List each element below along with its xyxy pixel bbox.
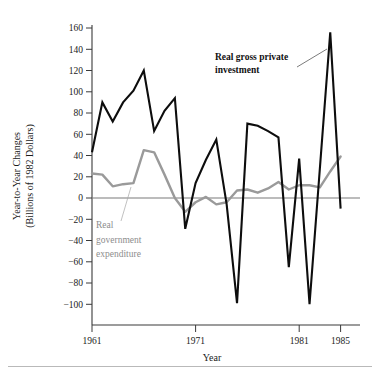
annotation-leader-line-investment (297, 49, 327, 67)
y-tick-label: −40 (68, 236, 83, 246)
y-tick-label: 20 (74, 172, 84, 182)
y-tick-label: 120 (69, 66, 84, 76)
y-axis-ticks (86, 28, 92, 304)
y-tick-label: 80 (74, 108, 84, 118)
x-axis-title: Year (203, 352, 222, 363)
y-axis-title: Year-to-Year Changes (Billions of 1982 D… (11, 124, 36, 228)
annotation-government-expenditure-line2: government (96, 235, 142, 245)
y-tick-label: −60 (68, 257, 83, 267)
y-tick-label: 60 (74, 130, 84, 140)
y-tick-label: 40 (74, 151, 84, 161)
x-tick-label: 1981 (290, 336, 309, 346)
chart-figure: 160 140 120 100 80 60 40 20 0 −20 −40 −6… (0, 0, 380, 373)
y-axis-tick-labels: 160 140 120 100 80 60 40 20 0 −20 −40 −6… (63, 23, 83, 309)
annotation-government-expenditure-line3: expenditure (96, 249, 141, 259)
annotation-leader-line-government (121, 187, 131, 221)
annotation-private-investment-line1: Real gross private (215, 52, 288, 62)
annotation-private-investment: Real gross private investment (215, 49, 327, 75)
chart-plot-area: 160 140 120 100 80 60 40 20 0 −20 −40 −6… (0, 0, 380, 373)
x-tick-label: 1985 (331, 336, 350, 346)
y-axis-title-line2: (Billions of 1982 Dollars) (24, 124, 36, 228)
y-tick-label: −100 (63, 300, 83, 310)
y-tick-label: 0 (78, 193, 83, 203)
x-axis-ticks (92, 325, 341, 332)
y-tick-label: 140 (69, 45, 84, 55)
x-tick-label: 1971 (186, 336, 205, 346)
x-tick-label: 1961 (83, 336, 102, 346)
y-tick-label: −80 (68, 278, 83, 288)
footer-divider-rule (8, 366, 372, 367)
y-tick-label: −20 (68, 215, 83, 225)
x-axis-tick-labels: 1961 1971 1981 1985 (83, 336, 351, 346)
y-tick-label: 160 (69, 23, 84, 33)
y-axis-title-line1: Year-to-Year Changes (11, 132, 22, 220)
annotation-private-investment-line2: investment (215, 65, 260, 75)
y-tick-label: 100 (69, 87, 84, 97)
annotation-government-expenditure-line1: Real (96, 220, 114, 230)
